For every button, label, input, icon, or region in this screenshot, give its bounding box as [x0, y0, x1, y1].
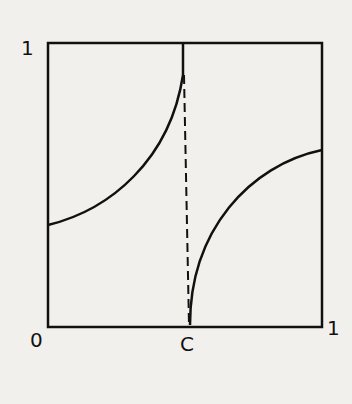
label-y-one: 1 — [21, 38, 34, 58]
label-c: C — [180, 334, 194, 354]
unit-square — [48, 43, 322, 327]
dashed-line — [184, 75, 189, 325]
diagram-canvas — [0, 0, 352, 404]
right-curve — [190, 150, 322, 325]
left-curve — [48, 43, 183, 225]
label-origin: 0 — [30, 330, 43, 350]
label-x-one: 1 — [327, 318, 340, 338]
